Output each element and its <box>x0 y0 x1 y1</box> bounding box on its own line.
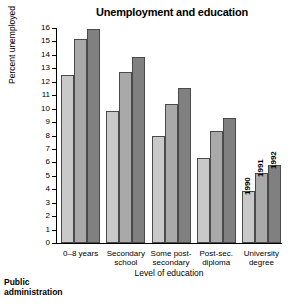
y-axis-tick-label: 5 <box>30 172 50 180</box>
y-axis-tick-label: 6 <box>30 158 50 166</box>
y-axis-tick-label: 4 <box>30 185 50 193</box>
x-axis-label: Universitydegree <box>232 249 290 267</box>
y-axis-tick <box>52 122 56 123</box>
bar-1992[interactable] <box>178 88 191 243</box>
bar-1992[interactable] <box>87 29 100 243</box>
bar-1991[interactable] <box>165 104 178 243</box>
bar-1992[interactable] <box>223 118 236 243</box>
y-axis-tick <box>52 109 56 110</box>
y-axis-tick <box>52 41 56 42</box>
y-axis-tick-label: 2 <box>30 212 50 220</box>
chart-title: Unemployment and education <box>58 6 286 19</box>
y-axis-tick-label: 16 <box>30 24 50 32</box>
y-axis-tick-label: 12 <box>30 78 50 86</box>
y-axis-tick-label: 1 <box>30 226 50 234</box>
bar-group <box>61 28 100 243</box>
footer-note: Publicadministration <box>4 277 124 297</box>
y-axis-tick <box>52 162 56 163</box>
year-annotation-1990: 1990 <box>244 177 252 195</box>
year-annotation-1992: 1992 <box>270 151 278 169</box>
bar-1991[interactable] <box>210 131 223 243</box>
bar-1990[interactable] <box>106 111 119 243</box>
y-axis-tick <box>52 95 56 96</box>
y-axis-tick-label: 7 <box>30 145 50 153</box>
y-axis-tick <box>52 176 56 177</box>
y-axis-tick <box>52 28 56 29</box>
y-axis-tick-label: 13 <box>30 64 50 72</box>
bar-1991[interactable] <box>74 39 87 243</box>
bar-group <box>106 28 145 243</box>
y-axis-tick <box>52 68 56 69</box>
y-axis-tick <box>52 82 56 83</box>
y-axis-tick <box>52 216 56 217</box>
y-axis-tick-label: 0 <box>30 239 50 247</box>
y-axis-tick-label: 14 <box>30 51 50 59</box>
y-axis-tick-label: 10 <box>30 105 50 113</box>
y-axis-tick <box>52 55 56 56</box>
bar-1991[interactable] <box>255 173 268 243</box>
y-axis-tick-label: 11 <box>30 91 50 99</box>
bar-1990[interactable] <box>61 75 74 243</box>
plot-area: 012345678910111213141516 199019911992 0–… <box>56 28 282 243</box>
bar-1991[interactable] <box>119 72 132 243</box>
bar-group <box>197 28 236 243</box>
y-axis-line <box>56 28 57 243</box>
bar-1992[interactable] <box>268 165 281 243</box>
bar-1990[interactable] <box>197 158 210 243</box>
y-axis-tick-label: 9 <box>30 118 50 126</box>
x-axis-line <box>56 243 282 244</box>
y-axis-tick-label: 15 <box>30 37 50 45</box>
bar-group <box>242 28 281 243</box>
y-axis-title: Percent unemployed <box>8 6 17 84</box>
y-axis-tick <box>52 203 56 204</box>
bar-1990[interactable] <box>152 136 165 244</box>
y-axis-tick <box>52 230 56 231</box>
year-annotation-1991: 1991 <box>257 159 265 177</box>
y-axis-tick <box>52 149 56 150</box>
y-axis-tick <box>52 136 56 137</box>
y-axis-tick-label: 8 <box>30 132 50 140</box>
y-axis-tick-label: 3 <box>30 199 50 207</box>
bar-1992[interactable] <box>132 57 145 243</box>
bar-group <box>152 28 191 243</box>
y-axis-tick <box>52 189 56 190</box>
bar-1990[interactable] <box>242 191 255 243</box>
